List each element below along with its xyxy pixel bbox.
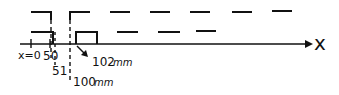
- axis-label-x: x: [314, 31, 326, 55]
- tick-label-100: 100: [73, 75, 96, 89]
- pulse-diagram: x x=0 50 51 100 mm 102 mm: [0, 0, 339, 95]
- tick-label-50: 50: [43, 49, 58, 63]
- tick-label-100-unit: mm: [94, 77, 114, 88]
- mid-pulse-2: [76, 32, 97, 44]
- tick-label-51: 51: [52, 64, 67, 78]
- tick-label-102-unit: mm: [113, 57, 133, 68]
- tick-label-102: 102: [92, 55, 115, 69]
- origin-label: x=0: [18, 49, 41, 62]
- top-pulse-1: [31, 12, 51, 20]
- x-axis-arrowhead: [305, 40, 313, 48]
- top-pulse-2: [70, 12, 90, 20]
